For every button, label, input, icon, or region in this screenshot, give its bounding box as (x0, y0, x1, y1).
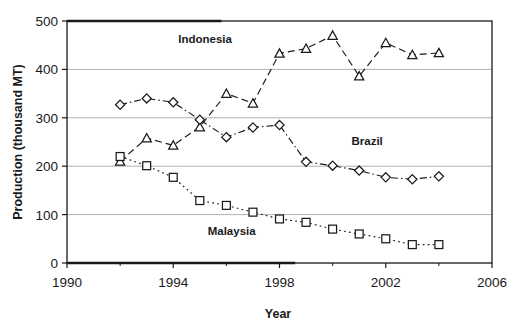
marker-square (249, 208, 257, 216)
xtick-label-1990: 1990 (52, 275, 82, 290)
ytick-label-0: 0 (50, 256, 58, 271)
marker-diamond (116, 100, 125, 109)
marker-diamond (275, 120, 284, 129)
marker-square (355, 230, 363, 238)
data-series (116, 31, 444, 249)
marker-diamond (222, 133, 231, 142)
marker-triangle (328, 31, 337, 39)
marker-square (222, 201, 230, 209)
gridlines (67, 69, 492, 214)
axis-ticks (62, 21, 492, 268)
marker-diamond (169, 98, 178, 107)
series-annotations: IndonesiaBrazilMalaysia (178, 33, 383, 237)
marker-square (116, 153, 124, 161)
ytick-label-400: 400 (35, 62, 58, 77)
marker-square (435, 241, 443, 249)
series-indonesia (116, 31, 444, 165)
chart-figure: 0100200300400500 19901994199820022006 In… (0, 0, 515, 328)
marker-triangle (248, 99, 257, 107)
marker-square (382, 235, 390, 243)
marker-diamond (434, 172, 443, 181)
marker-square (408, 241, 416, 249)
marker-square (196, 197, 204, 205)
line-malaysia (120, 157, 439, 245)
y-axis-tick-labels: 0100200300400500 (35, 14, 58, 271)
ytick-label-300: 300 (35, 111, 58, 126)
marker-diamond (381, 173, 390, 182)
xtick-label-1994: 1994 (158, 275, 189, 290)
marker-square (302, 218, 310, 226)
x-axis-tick-labels: 19901994199820022006 (52, 275, 507, 290)
production-line-chart: 0100200300400500 19901994199820022006 In… (0, 0, 515, 328)
series-label-malaysia: Malaysia (208, 225, 257, 237)
xtick-label-2002: 2002 (371, 275, 401, 290)
marker-diamond (248, 123, 257, 132)
marker-diamond (408, 175, 417, 184)
marker-square (169, 173, 177, 181)
marker-triangle (434, 48, 443, 56)
marker-diamond (328, 161, 337, 170)
marker-diamond (301, 157, 310, 166)
ytick-label-500: 500 (35, 14, 58, 29)
marker-square (329, 225, 337, 233)
marker-square (143, 162, 151, 170)
marker-square (276, 215, 284, 223)
ytick-label-200: 200 (35, 159, 58, 174)
series-malaysia (116, 153, 443, 249)
marker-triangle (142, 134, 151, 142)
marker-triangle (301, 44, 310, 52)
xtick-label-2006: 2006 (477, 275, 507, 290)
y-axis-title: Production (thousand MT) (11, 64, 25, 220)
marker-triangle (222, 89, 231, 97)
x-axis-title: Year (265, 307, 292, 321)
xtick-label-1998: 1998 (264, 275, 294, 290)
marker-diamond (355, 166, 364, 175)
ytick-label-100: 100 (35, 208, 58, 223)
marker-diamond (142, 94, 151, 103)
series-label-indonesia: Indonesia (178, 33, 232, 45)
marker-triangle (381, 38, 390, 46)
line-brazil (120, 98, 439, 179)
series-brazil (116, 94, 444, 184)
series-label-brazil: Brazil (351, 135, 382, 147)
